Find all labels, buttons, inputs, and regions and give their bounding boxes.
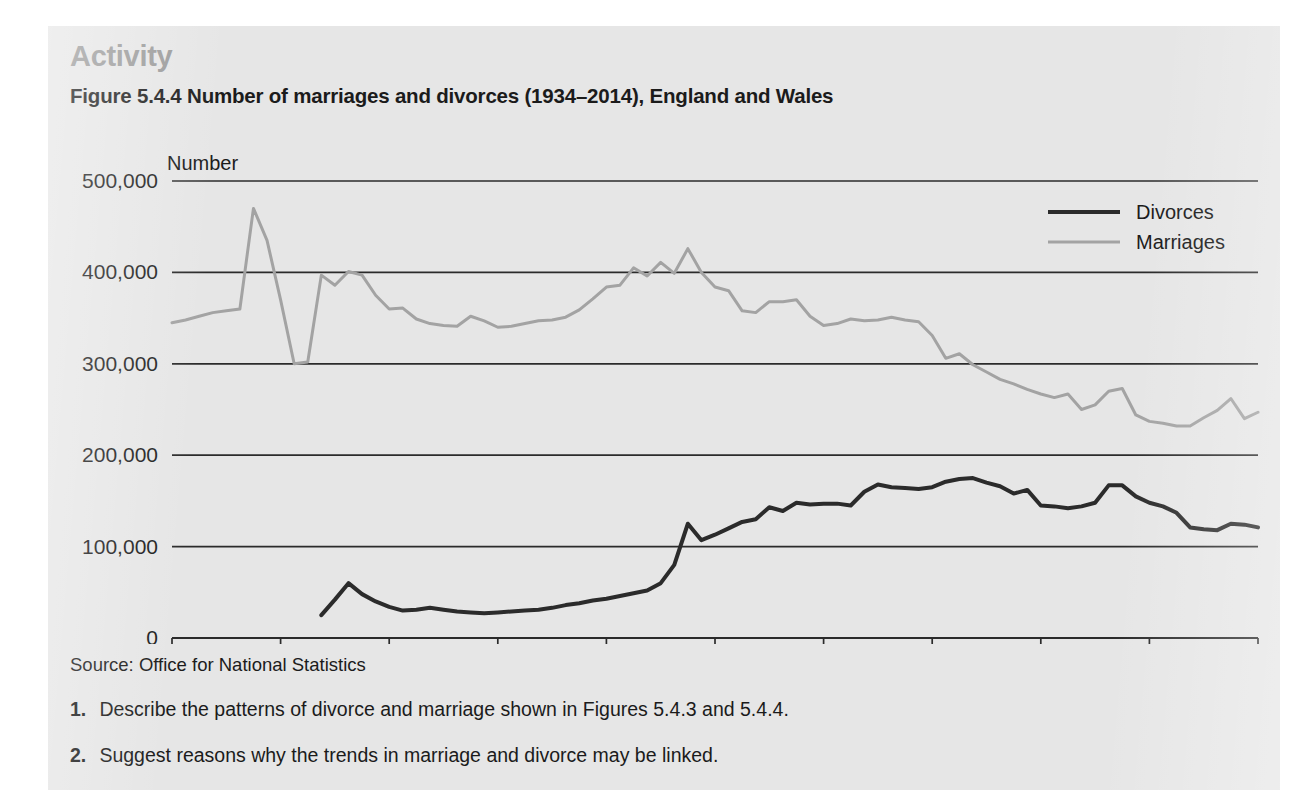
activity-panel: Activity Figure 5.4.4 Number of marriage…	[48, 26, 1280, 790]
y-tick-label: 200,000	[82, 443, 158, 466]
marriages-divorces-line-chart: 0100,000200,000300,000400,000500,000 193…	[48, 124, 1280, 644]
y-tick-label: 100,000	[82, 535, 158, 558]
y-axis-unit-label: Number	[167, 152, 238, 174]
activity-heading: Activity	[70, 40, 172, 73]
y-tick-label: 500,000	[82, 169, 158, 192]
chart-container: 0100,000200,000300,000400,000500,000 193…	[48, 124, 1280, 644]
chart-legend: DivorcesMarriages	[1048, 201, 1225, 253]
question-text: Describe the patterns of divorce and mar…	[99, 698, 788, 720]
y-axis-tick-labels: 0100,000200,000300,000400,000500,000	[82, 169, 158, 644]
data-series-group	[172, 208, 1258, 615]
figure-title: Figure 5.4.4 Number of marriages and div…	[70, 84, 833, 108]
legend-label-marriages: Marriages	[1136, 231, 1225, 253]
legend-label-divorces: Divorces	[1136, 201, 1214, 223]
gridlines-group	[172, 181, 1258, 638]
y-tick-label: 400,000	[82, 260, 158, 283]
question-text: Suggest reasons why the trends in marria…	[99, 744, 718, 766]
source-note: Source: Office for National Statistics	[70, 654, 366, 676]
question-number: 1.	[70, 698, 94, 721]
question-number: 2.	[70, 744, 94, 767]
question-item-1: 1. Describe the patterns of divorce and …	[70, 698, 789, 721]
y-tick-label: 0	[146, 626, 158, 644]
y-tick-label: 300,000	[82, 352, 158, 375]
question-item-2: 2. Suggest reasons why the trends in mar…	[70, 744, 718, 767]
